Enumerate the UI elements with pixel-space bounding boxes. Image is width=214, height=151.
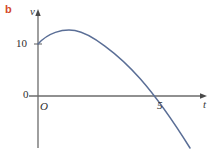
origin-label: O <box>40 101 48 112</box>
figure-panel: b v t 10 0 O 5 <box>0 0 214 151</box>
y-axis-arrowhead <box>35 9 40 16</box>
x-tick-label-5: 5 <box>157 100 163 111</box>
velocity-curve <box>38 30 190 148</box>
graph-canvas <box>0 0 214 151</box>
x-axis-label: t <box>203 99 206 110</box>
y-axis-label: v <box>30 6 35 17</box>
part-label: b <box>5 4 12 15</box>
y-tick-label-0: 0 <box>23 89 29 100</box>
y-tick-label-10: 10 <box>16 38 27 49</box>
